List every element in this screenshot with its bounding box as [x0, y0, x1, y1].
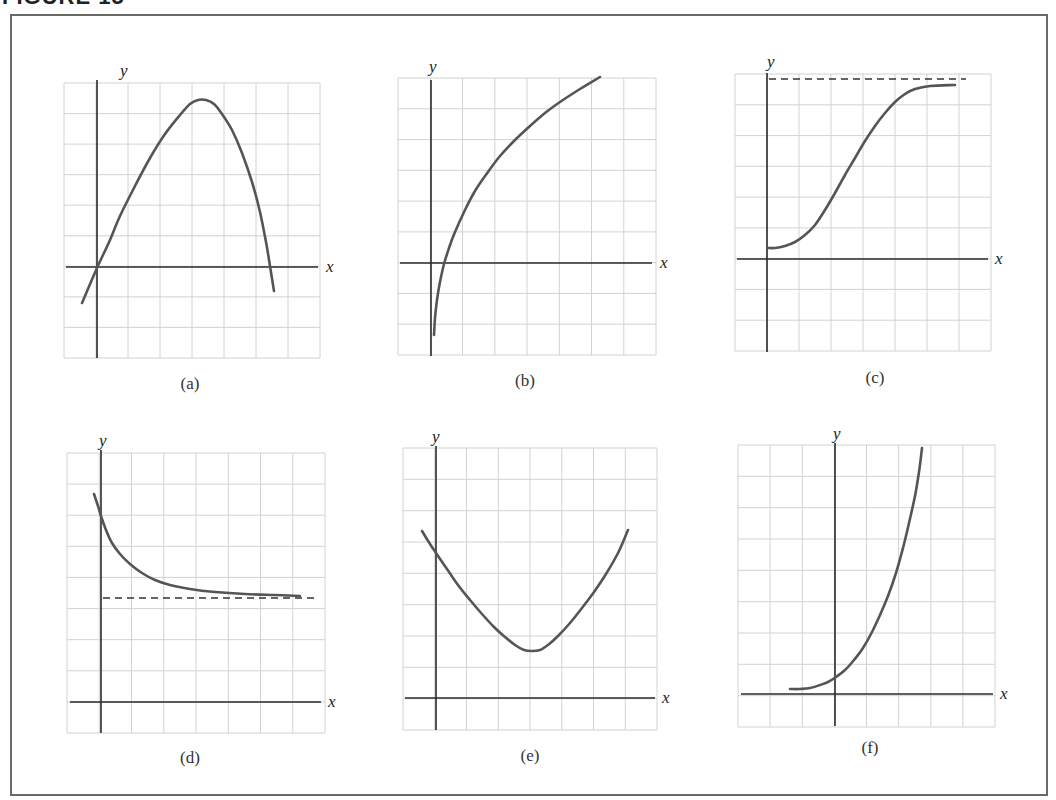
grid — [64, 83, 320, 358]
grid — [403, 448, 657, 730]
panel-c: yx — [735, 52, 1003, 352]
panel-caption-c: (c) — [866, 368, 885, 388]
x-axis-label: x — [327, 692, 336, 711]
function-curve — [422, 530, 628, 651]
y-axis-label: y — [430, 427, 440, 446]
y-axis-label: y — [765, 52, 775, 71]
y-axis-label: y — [97, 431, 107, 450]
x-axis-label: x — [999, 684, 1008, 703]
panel-f: yx — [738, 424, 1008, 727]
figure-plots: yxyxyxyxyxyx — [0, 0, 1056, 800]
y-axis-label: y — [118, 61, 128, 80]
x-axis-label: x — [661, 688, 670, 707]
x-axis-label: x — [659, 253, 668, 272]
panel-a: yx — [64, 61, 334, 358]
panel-caption-d: (d) — [180, 748, 200, 768]
x-axis-label: x — [325, 257, 334, 276]
x-axis-label: x — [994, 249, 1003, 268]
function-curve — [82, 99, 274, 303]
y-axis-label: y — [831, 424, 841, 443]
panel-caption-f: (f) — [862, 738, 879, 758]
panel-e: yx — [403, 427, 670, 730]
function-curve — [94, 494, 300, 596]
panel-caption-a: (a) — [181, 374, 200, 394]
function-curve — [790, 448, 922, 689]
panel-caption-b: (b) — [515, 371, 535, 391]
grid — [738, 445, 995, 727]
panel-caption-e: (e) — [521, 746, 540, 766]
grid — [735, 74, 991, 351]
y-axis-label: y — [427, 57, 437, 76]
grid — [67, 453, 325, 733]
panel-d: yx — [67, 431, 336, 733]
panel-b: yx — [398, 57, 668, 356]
function-curve — [434, 77, 600, 335]
